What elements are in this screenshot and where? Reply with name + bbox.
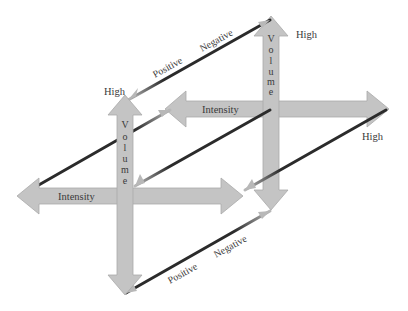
front-volume-letter: V (121, 119, 129, 130)
front-volume-letter: e (123, 175, 128, 186)
back-intensity-label: Intensity (202, 104, 239, 115)
back-volume-high-label: High (296, 29, 318, 40)
back-intensity-high-label: High (362, 131, 384, 142)
back-volume-letter: e (269, 86, 274, 97)
front-volume-letter: u (123, 153, 128, 164)
bottom-diagonal-negative-label: Negative (212, 232, 249, 259)
front-intensity-label: Intensity (58, 191, 95, 202)
bottom-diagonal-positive-label: Positive (166, 260, 200, 286)
top-diagonal-arrow (128, 20, 270, 100)
back-volume-letter: l (270, 55, 273, 66)
diagonal-back-center-to-front-volume (135, 110, 270, 186)
top-diagonal-positive-label: Positive (151, 54, 185, 80)
front-volume-high-label: High (104, 86, 126, 97)
intensity-volume-diagram: V o l u m e High Intensity High V o l u … (0, 0, 408, 311)
bottom-diagonal-arrow (126, 211, 270, 293)
back-volume-letter: o (269, 44, 274, 55)
back-volume-letter: V (267, 33, 275, 44)
front-volume-letter: m (121, 164, 129, 175)
front-volume-letter: o (123, 131, 128, 142)
front-volume-letter: l (124, 142, 127, 153)
